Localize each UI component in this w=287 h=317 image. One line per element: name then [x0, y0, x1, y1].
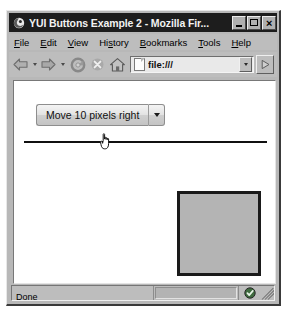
close-icon: × — [263, 16, 275, 30]
moveable-box — [177, 191, 261, 276]
url-input[interactable]: file:/// — [148, 59, 239, 70]
menu-item-help[interactable]: Help — [231, 37, 251, 48]
split-button-menu-arrow[interactable] — [148, 104, 165, 126]
back-arrow-icon[interactable] — [12, 57, 29, 72]
menu-item-tools[interactable]: Tools — [198, 37, 220, 48]
go-button[interactable] — [256, 55, 274, 74]
resize-grip-icon[interactable] — [261, 286, 274, 300]
firefox-logo-icon — [13, 17, 25, 29]
horizontal-divider — [24, 141, 267, 143]
menu-item-bookmarks[interactable]: Bookmarks — [140, 37, 188, 48]
browser-window: YUI Buttons Example 2 - Mozilla Fir... ×… — [6, 10, 281, 306]
url-bar[interactable]: file:/// — [130, 56, 254, 73]
progress-meter — [155, 287, 237, 299]
chevron-down-icon — [154, 113, 160, 117]
forward-history-dropdown-icon[interactable] — [61, 63, 65, 66]
minimize-button[interactable] — [232, 16, 246, 30]
move-box-split-button[interactable]: Move 10 pixels right — [36, 104, 165, 126]
back-history-dropdown-icon[interactable] — [33, 63, 37, 66]
stop-icon[interactable] — [90, 57, 105, 72]
url-dropdown-button[interactable] — [239, 57, 252, 72]
maximize-button[interactable] — [247, 16, 261, 30]
window-title: YUI Buttons Example 2 - Mozilla Fir... — [29, 17, 231, 29]
menu-item-file[interactable]: File — [14, 37, 29, 48]
status-bar: Done — [11, 285, 275, 301]
navigation-toolbar: file:/// — [9, 52, 277, 77]
menu-item-edit[interactable]: Edit — [40, 37, 56, 48]
page-content-area: Move 10 pixels right — [13, 80, 276, 284]
forward-arrow-icon[interactable] — [40, 57, 57, 72]
page-document-icon — [134, 58, 145, 71]
reload-icon[interactable] — [70, 57, 86, 73]
go-arrow-icon — [260, 59, 271, 70]
home-icon[interactable] — [109, 57, 126, 73]
title-bar[interactable]: YUI Buttons Example 2 - Mozilla Fir... × — [9, 13, 277, 32]
status-message-panel: Done — [12, 286, 154, 300]
security-shield-check-icon[interactable] — [238, 286, 261, 300]
menu-item-history[interactable]: History — [99, 37, 129, 48]
close-button[interactable]: × — [262, 16, 276, 30]
menu-bar: File Edit View History Bookmarks Tools H… — [9, 34, 277, 50]
status-text: Done — [12, 292, 38, 302]
move-10-pixels-right-button[interactable]: Move 10 pixels right — [36, 104, 148, 126]
menu-item-view[interactable]: View — [68, 37, 88, 48]
